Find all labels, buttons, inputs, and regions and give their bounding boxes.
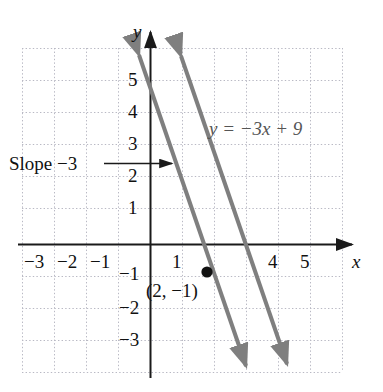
x-tick-1: 1 <box>172 252 182 271</box>
y-tick-5: 5 <box>128 70 138 89</box>
slope-annotation-label: Slope −3 <box>9 154 77 173</box>
y-tick-1: 1 <box>128 198 138 217</box>
x-tick-neg3: −3 <box>24 252 44 271</box>
equation-annotation-label: y = −3x + 9 <box>209 119 302 138</box>
y-tick-neg3: −3 <box>119 330 139 349</box>
y-tick-3: 3 <box>128 134 138 153</box>
grid-vertical <box>23 48 343 372</box>
plotted-point-dot <box>201 266 212 277</box>
slope-line-through-point <box>139 55 246 366</box>
x-tick-5: 5 <box>300 252 310 271</box>
y-tick-neg1: −1 <box>119 264 139 283</box>
x-axis-label: x <box>352 252 360 271</box>
equation-line <box>181 56 287 364</box>
y-tick-2: 2 <box>128 166 138 185</box>
x-tick-neg1: −1 <box>90 252 110 271</box>
y-tick-neg2: −2 <box>119 298 139 317</box>
y-axis-label: y <box>133 22 141 41</box>
x-tick-neg2: −2 <box>57 252 77 271</box>
graph-figure: 5 4 3 2 1 −1 −2 −3 −3 −2 −1 1 4 5 y x Sl… <box>0 0 383 392</box>
graph-canvas <box>0 0 383 392</box>
y-tick-4: 4 <box>128 102 138 121</box>
x-tick-4: 4 <box>268 252 278 271</box>
point-coordinate-label: (2, −1) <box>146 281 198 300</box>
